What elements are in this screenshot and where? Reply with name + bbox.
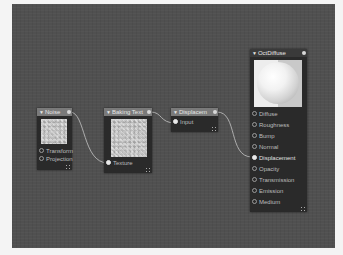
port-label: Displacement bbox=[259, 155, 295, 161]
port-icon[interactable] bbox=[106, 160, 111, 165]
port-label: Roughness bbox=[259, 122, 289, 128]
input-port-texture[interactable]: Texture bbox=[106, 159, 133, 167]
node-noise-header[interactable]: ▼Noise bbox=[37, 108, 72, 116]
node-baking-texture[interactable]: ▼Baking Text Texture bbox=[104, 108, 152, 173]
input-port-diffuse[interactable]: Diffuse bbox=[252, 110, 278, 118]
node-displacement-header[interactable]: ▼Displacem bbox=[171, 108, 218, 116]
port-icon[interactable] bbox=[252, 166, 257, 171]
port-icon[interactable] bbox=[252, 199, 257, 204]
noise-preview bbox=[41, 119, 67, 144]
port-icon[interactable] bbox=[252, 188, 257, 193]
port-label: Bump bbox=[259, 133, 275, 139]
port-icon[interactable] bbox=[252, 155, 257, 160]
material-sphere bbox=[257, 62, 299, 104]
node-title: Displacem bbox=[179, 109, 207, 115]
port-label: Opacity bbox=[259, 166, 279, 172]
port-label: Transform bbox=[46, 148, 73, 154]
output-port-icon[interactable] bbox=[67, 110, 71, 114]
collapse-icon[interactable]: ▼ bbox=[106, 109, 111, 115]
port-icon[interactable] bbox=[252, 111, 257, 116]
port-icon[interactable] bbox=[252, 122, 257, 127]
node-title: Noise bbox=[45, 109, 60, 115]
node-octdiffuse[interactable]: ▼OctDiffuse Diffuse Roughness Bump Norma… bbox=[250, 49, 307, 212]
node-title: Baking Text bbox=[112, 109, 143, 115]
input-port-emission[interactable]: Emission bbox=[252, 187, 283, 195]
node-displacement[interactable]: ▼Displacem Input bbox=[171, 108, 218, 132]
port-label: Normal bbox=[259, 144, 278, 150]
node-title: OctDiffuse bbox=[258, 50, 286, 56]
input-port-normal[interactable]: Normal bbox=[252, 143, 278, 151]
port-icon[interactable] bbox=[39, 148, 44, 153]
collapse-icon[interactable]: ▼ bbox=[252, 50, 257, 56]
port-icon[interactable] bbox=[252, 133, 257, 138]
port-label: Projection bbox=[46, 156, 73, 162]
output-port-icon[interactable] bbox=[213, 110, 217, 114]
port-label: Transmission bbox=[259, 177, 294, 183]
collapse-icon[interactable]: ▼ bbox=[39, 109, 44, 115]
port-icon[interactable] bbox=[252, 144, 257, 149]
port-label: Input bbox=[180, 119, 193, 125]
port-label: Texture bbox=[113, 160, 133, 166]
material-preview bbox=[254, 60, 302, 107]
collapse-icon[interactable]: ▼ bbox=[173, 109, 178, 115]
resize-handle-icon[interactable] bbox=[212, 127, 216, 131]
output-port-icon[interactable] bbox=[302, 51, 306, 55]
node-octdiffuse-header[interactable]: ▼OctDiffuse bbox=[250, 49, 307, 57]
resize-handle-icon[interactable] bbox=[146, 168, 150, 172]
input-port-displacement[interactable]: Displacement bbox=[252, 154, 295, 162]
input-port-projection[interactable]: Projection bbox=[39, 155, 73, 163]
input-port-transform[interactable]: Transform bbox=[39, 147, 73, 155]
baking-preview bbox=[111, 119, 147, 157]
port-label: Emission bbox=[259, 188, 283, 194]
resize-handle-icon[interactable] bbox=[301, 207, 305, 211]
output-port-icon[interactable] bbox=[147, 110, 151, 114]
node-baking-header[interactable]: ▼Baking Text bbox=[104, 108, 152, 116]
input-port-transmission[interactable]: Transmission bbox=[252, 176, 294, 184]
input-port-opacity[interactable]: Opacity bbox=[252, 165, 279, 173]
port-icon[interactable] bbox=[39, 156, 44, 161]
input-port-bump[interactable]: Bump bbox=[252, 132, 275, 140]
resize-handle-icon[interactable] bbox=[66, 165, 70, 169]
input-port-input[interactable]: Input bbox=[173, 118, 193, 126]
port-icon[interactable] bbox=[252, 177, 257, 182]
port-label: Diffuse bbox=[259, 111, 278, 117]
port-icon[interactable] bbox=[173, 119, 178, 124]
input-port-roughness[interactable]: Roughness bbox=[252, 121, 289, 129]
port-label: Medium bbox=[259, 199, 280, 205]
input-port-medium[interactable]: Medium bbox=[252, 198, 280, 206]
node-noise[interactable]: ▼Noise Transform Projection bbox=[37, 108, 72, 170]
